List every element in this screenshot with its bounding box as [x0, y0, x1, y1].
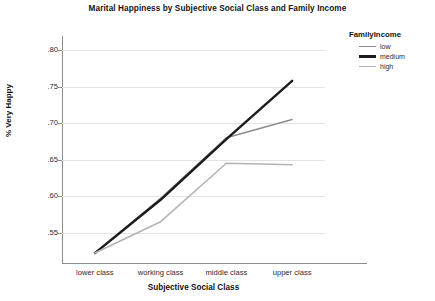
- legend-swatch-low: [359, 46, 376, 48]
- x-tick-label: working class: [138, 268, 184, 277]
- chart-title: Marital Happiness by Subjective Social C…: [0, 4, 435, 13]
- x-tick-label: lower class: [76, 268, 114, 277]
- legend: FamilyIncome lowmediumhigh: [349, 30, 435, 73]
- series-line-high: [95, 163, 292, 253]
- legend-item-medium[interactable]: medium: [359, 53, 435, 60]
- legend-label: high: [380, 63, 393, 70]
- legend-label: medium: [380, 53, 405, 60]
- y-tick-label: .60: [32, 191, 58, 200]
- y-tick-label: .55: [32, 228, 58, 237]
- legend-label: low: [380, 43, 391, 50]
- y-tick-label: .70: [32, 118, 58, 127]
- series-lines: [62, 41, 325, 260]
- series-line-low: [95, 119, 292, 253]
- y-tick-label: .75: [32, 82, 58, 91]
- legend-item-high[interactable]: high: [359, 63, 435, 70]
- legend-swatch-medium: [359, 55, 376, 57]
- legend-item-low[interactable]: low: [359, 43, 435, 50]
- plot-area: [62, 41, 325, 260]
- x-tick-label: middle class: [205, 268, 247, 277]
- x-axis-title: Subjective Social Class: [62, 283, 325, 292]
- chart-container: Marital Happiness by Subjective Social C…: [0, 0, 435, 301]
- series-line-medium: [95, 81, 292, 253]
- x-axis-line: [62, 263, 367, 264]
- x-tick-label: upper class: [273, 268, 312, 277]
- y-tick-label: .65: [32, 155, 58, 164]
- legend-swatch-high: [359, 66, 376, 68]
- legend-title: FamilyIncome: [349, 30, 435, 39]
- y-tick-label: .80: [32, 45, 58, 54]
- y-axis-title: % Very Happy: [4, 51, 13, 171]
